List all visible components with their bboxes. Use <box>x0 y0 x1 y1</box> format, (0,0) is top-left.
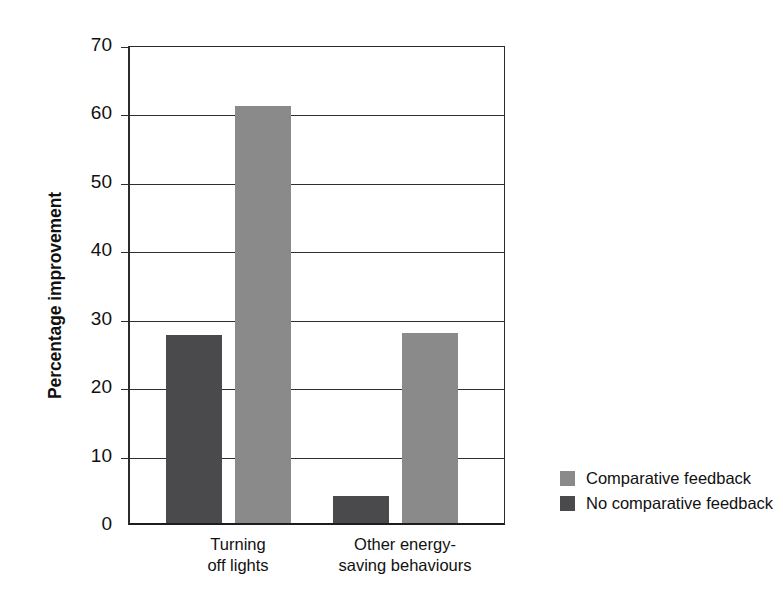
gridline-50 <box>130 184 504 185</box>
gridline-40 <box>130 252 504 253</box>
tick-mark-40 <box>121 252 129 253</box>
bar-no-comparative-feedback-other-energy-saving <box>333 496 389 523</box>
y-tick-label-70: 70 <box>72 34 112 56</box>
gridline-60 <box>130 115 504 116</box>
x-axis-label-other-energy-saving-behaviours: Other energy- saving behaviours <box>310 534 500 576</box>
x-axis-label-turning-off-lights: Turning off lights <box>168 534 308 576</box>
y-tick-label-10: 10 <box>72 445 112 467</box>
legend-swatch-comparative-feedback <box>560 471 575 486</box>
tick-mark-50 <box>121 184 129 185</box>
tick-mark-60 <box>121 115 129 116</box>
y-tick-label-20: 20 <box>72 376 112 398</box>
y-tick-label-30: 30 <box>72 308 112 330</box>
legend-item-no-comparative-feedback: No comparative feedback <box>560 491 773 516</box>
tick-mark-30 <box>121 321 129 322</box>
bar-chart-figure: Percentage improvement 70 60 50 40 30 20… <box>0 0 783 603</box>
legend-item-comparative-feedback: Comparative feedback <box>560 466 773 491</box>
y-tick-label-50: 50 <box>72 171 112 193</box>
legend-label-no-comparative-feedback: No comparative feedback <box>586 494 773 513</box>
y-tick-label-60: 60 <box>72 102 112 124</box>
gridline-30 <box>130 321 504 322</box>
tick-mark-70 <box>121 47 129 48</box>
plot-area: 70 60 50 40 30 20 10 0 <box>128 46 505 525</box>
tick-mark-20 <box>121 389 129 390</box>
y-tick-label-0: 0 <box>72 513 112 535</box>
bar-comparative-feedback-other-energy-saving <box>402 333 458 523</box>
y-tick-label-40: 40 <box>72 239 112 261</box>
tick-mark-10 <box>121 458 129 459</box>
bar-no-comparative-feedback-turning-off-lights <box>166 335 222 523</box>
legend-swatch-no-comparative-feedback <box>560 496 575 511</box>
bar-comparative-feedback-turning-off-lights <box>235 106 291 523</box>
legend-label-comparative-feedback: Comparative feedback <box>586 469 751 488</box>
y-axis-title: Percentage improvement <box>45 146 66 446</box>
legend: Comparative feedback No comparative feed… <box>560 466 773 516</box>
